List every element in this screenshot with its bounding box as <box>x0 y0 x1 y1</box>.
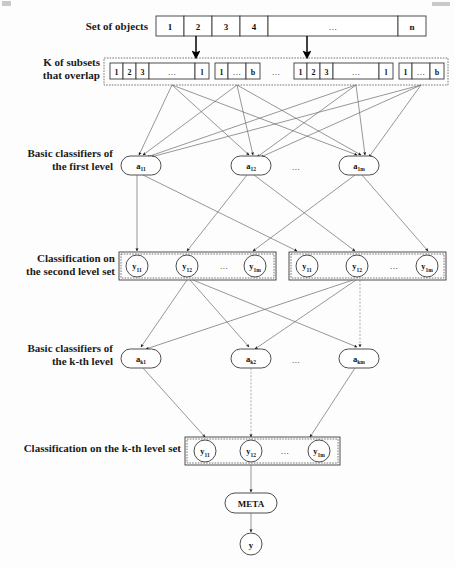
kth-output-node-y11: y11 <box>194 440 216 462</box>
second-level-node-y1m-group2: y1m <box>416 255 438 277</box>
kth-level-ellipsis: ... <box>292 355 300 365</box>
kth-level-node-akm: akm <box>339 349 379 368</box>
second-level-group-2-ellipsis: ... <box>390 261 398 271</box>
subsets-separator-ellipsis: ... <box>272 67 280 77</box>
subset-cell-label: ... <box>168 67 176 77</box>
kth-outputs-ellipsis: ... <box>281 446 289 456</box>
subset-cell-label: 1 <box>299 68 303 77</box>
edges-subsets-to-first-level <box>139 85 421 157</box>
first-level-node-a11: a11 <box>121 156 161 175</box>
edges-kth-level-to-outputs <box>143 368 355 437</box>
subset-group-4: 1 ... b <box>399 63 444 79</box>
second-level-node-y1m-group1: y1m <box>244 255 266 277</box>
object-cell-label: 1 <box>168 22 173 32</box>
kth-output-node-y1m: y1m <box>308 440 330 462</box>
object-cell-label: 4 <box>252 22 257 32</box>
label-second-level-line1: Classification on <box>37 252 115 264</box>
label-basic-kth-line2: the k-th level <box>52 355 113 367</box>
subset-cell-label: 3 <box>325 68 329 77</box>
kth-level-node-ak2: ak2 <box>231 349 271 368</box>
object-cell-label: 2 <box>196 22 201 32</box>
scan-artifact-topleft <box>2 1 11 6</box>
ensemble-architecture-diagram: Set of objects 1 2 3 4 ... n K of subset… <box>0 0 455 567</box>
second-level-node-y12-group2: y12 <box>346 255 368 277</box>
subset-group-2: 1 ... b <box>215 63 260 79</box>
final-output-label: y <box>249 540 254 550</box>
label-basic-kth-line1: Basic classifiers of <box>27 342 113 354</box>
edges-first-level-to-second-level <box>137 175 428 251</box>
second-level-node-y12-group1: y12 <box>176 255 198 277</box>
meta-node: META <box>225 493 277 513</box>
subset-cell-label: 3 <box>141 68 145 77</box>
subset-group-3: 1 2 3 ... l <box>294 63 393 79</box>
subset-cell-label: ... <box>352 67 360 77</box>
kth-output-node-y12: y12 <box>240 440 262 462</box>
label-k-subsets-line2: that overlap <box>43 69 100 81</box>
subset-cell-label: ... <box>233 67 241 77</box>
scan-artifact-topright <box>432 2 450 6</box>
second-level-node-y11-group1: y11 <box>126 255 148 277</box>
label-second-level-line2: the second level set <box>26 265 115 277</box>
subset-cell-label: 1 <box>115 68 119 77</box>
label-set-of-objects: Set of objects <box>86 20 149 32</box>
meta-label: META <box>238 499 265 509</box>
edges-second-level-to-kth-level <box>141 280 360 349</box>
label-kth-level-set: Classification on the k-th level set <box>24 442 182 454</box>
object-cell-label: 3 <box>224 22 229 32</box>
kth-level-node-ak1: ak1 <box>121 349 161 368</box>
subset-cell-label: ... <box>417 67 425 77</box>
diagram-page: Set of objects 1 2 3 4 ... n K of subset… <box>0 0 455 567</box>
subset-cell-label: 1 <box>220 68 224 77</box>
first-level-ellipsis: ... <box>292 162 300 172</box>
object-set-row: 1 2 3 4 ... n <box>156 16 426 36</box>
subset-group-1: 1 2 3 ... l <box>110 63 209 79</box>
first-level-node-a1m: a1m <box>339 156 379 175</box>
second-level-node-y11-group2: y11 <box>296 255 318 277</box>
second-level-group-1-ellipsis: ... <box>220 261 228 271</box>
label-basic-first-line2: the first level <box>52 160 113 172</box>
first-level-node-a12: a12 <box>231 156 271 175</box>
final-output-node: y <box>240 533 262 555</box>
subset-cell-label: b <box>251 68 256 77</box>
label-basic-first-line1: Basic classifiers of <box>27 147 113 159</box>
label-k-subsets-line1: K of subsets <box>43 56 101 68</box>
object-cell-label: n <box>409 22 414 32</box>
subset-cell-label: b <box>435 68 440 77</box>
subset-cell-label: 2 <box>312 68 316 77</box>
subset-cell-label: 1 <box>404 68 408 77</box>
object-cell-label: ... <box>329 22 337 32</box>
subset-cell-label: 2 <box>128 68 132 77</box>
